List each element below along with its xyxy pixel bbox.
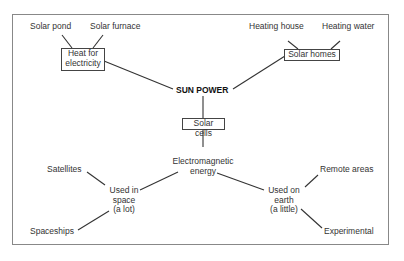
node-used-in-space: Used in space (a lot) [104,186,144,215]
node-solar-furnace: Solar furnace [90,22,141,32]
node-used-on-earth: Used on earth (a little) [264,186,304,215]
node-experimental: Experimental [324,227,374,237]
node-spaceships: Spaceships [30,227,74,237]
node-electromagnetic-energy: Electromagnetic energy [171,157,235,176]
node-sun-power: SUN POWER [176,86,228,96]
heat-line-2: electricity [64,59,102,69]
node-heat-for-electricity: Heat for electricity [61,48,105,71]
node-satellites: Satellites [47,165,82,175]
node-solar-cells: Solar cells [182,118,225,130]
space-line-3: (a lot) [104,205,144,215]
em-line-2: energy [171,167,235,177]
node-solar-pond: Solar pond [30,22,71,32]
node-remote-areas: Remote areas [320,165,373,175]
node-heating-house: Heating house [249,22,304,32]
node-solar-homes: Solar homes [284,49,340,61]
node-heating-water: Heating water [322,22,374,32]
earth-line-3: (a little) [264,205,304,215]
